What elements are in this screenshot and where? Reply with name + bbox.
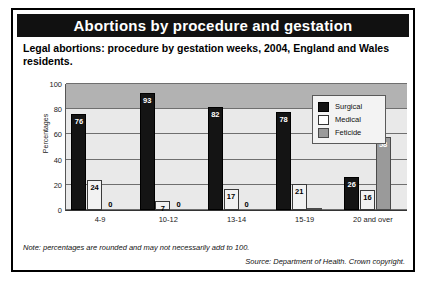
plot-area: 020406080100 762404-9937010-128217013-14… bbox=[65, 84, 407, 211]
y-axis-tick-label: 60 bbox=[54, 130, 62, 139]
y-axis-tick-label: 20 bbox=[54, 180, 62, 189]
y-axis-tick-label: 0 bbox=[58, 206, 62, 215]
bar-surgical-0: 76 bbox=[71, 114, 86, 210]
y-axis-tick-label: 100 bbox=[49, 80, 62, 89]
x-axis-tick-label: 20 and over bbox=[353, 215, 393, 224]
y-axis-label: Percentages bbox=[42, 104, 49, 164]
y-axis-tick-label: 80 bbox=[54, 105, 62, 114]
bar-value-label: 0 bbox=[108, 200, 112, 209]
bar-value-label: 0 bbox=[245, 200, 249, 209]
legend-label-medical: Medical bbox=[335, 115, 361, 124]
bar-medical-3: 21 bbox=[292, 184, 307, 210]
bar-medical-2: 17 bbox=[224, 189, 239, 210]
chart-legend: Surgical Medical Feticide bbox=[312, 95, 386, 144]
bar-surgical-4: 26 bbox=[344, 177, 359, 210]
bar-group: 762404-9 bbox=[66, 84, 134, 210]
y-axis-tick-label: 40 bbox=[54, 155, 62, 164]
bar-value-label: 21 bbox=[295, 187, 303, 196]
legend-item-feticide: Feticide bbox=[318, 126, 380, 139]
bar-feticide-3: 1 bbox=[307, 208, 322, 210]
legend-item-medical: Medical bbox=[318, 113, 380, 126]
legend-swatch-surgical bbox=[318, 102, 329, 112]
bar-medical-0: 24 bbox=[87, 180, 102, 210]
figure-panel: Abortions by procedure and gestation Leg… bbox=[11, 8, 415, 272]
bar-value-label: 17 bbox=[227, 192, 235, 201]
bar-group: 8217013-14 bbox=[202, 84, 270, 210]
bar-surgical-2: 82 bbox=[208, 107, 223, 210]
bar-medical-1: 7 bbox=[155, 201, 170, 210]
bar-value-label: 93 bbox=[143, 96, 151, 105]
bar-value-label: 16 bbox=[363, 193, 371, 202]
legend-swatch-feticide bbox=[318, 128, 329, 138]
legend-label-feticide: Feticide bbox=[335, 128, 361, 137]
chart-area: Percentages 020406080100 762404-9937010-… bbox=[21, 78, 409, 238]
bar-surgical-1: 93 bbox=[140, 93, 155, 210]
x-axis-tick-label: 15-19 bbox=[295, 215, 314, 224]
bar-group: 937010-12 bbox=[134, 84, 202, 210]
bar-surgical-3: 78 bbox=[276, 112, 291, 210]
x-axis-tick-label: 4-9 bbox=[95, 215, 106, 224]
x-axis-tick-label: 10-12 bbox=[159, 215, 178, 224]
bar-value-label: 78 bbox=[279, 115, 287, 124]
bar-medical-4: 16 bbox=[360, 190, 375, 210]
bar-feticide-4: 58 bbox=[376, 137, 391, 210]
bar-value-label: 26 bbox=[348, 180, 356, 189]
legend-item-surgical: Surgical bbox=[318, 100, 380, 113]
legend-swatch-medical bbox=[318, 115, 329, 125]
figure-note: Note: percentages are rounded and may no… bbox=[23, 243, 249, 252]
figure-source: Source: Department of Health. Crown copy… bbox=[245, 257, 405, 266]
figure-title-bar: Abortions by procedure and gestation bbox=[17, 14, 409, 37]
bar-value-label: 7 bbox=[161, 204, 165, 213]
bar-value-label: 82 bbox=[211, 110, 219, 119]
page-title: Abortions by procedure and gestation bbox=[74, 17, 353, 34]
bar-value-label: 76 bbox=[75, 117, 83, 126]
bar-value-label: 0 bbox=[176, 200, 180, 209]
bar-value-label: 24 bbox=[90, 183, 98, 192]
figure-subtitle: Legal abortions: procedure by gestation … bbox=[23, 42, 399, 68]
x-axis-tick-label: 13-14 bbox=[227, 215, 246, 224]
legend-label-surgical: Surgical bbox=[335, 102, 362, 111]
